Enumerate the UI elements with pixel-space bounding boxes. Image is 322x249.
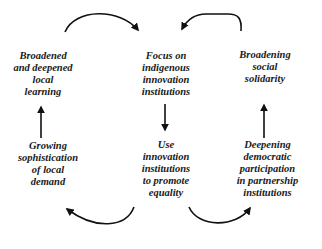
node-use-institutions: Use innovation institutions to promote e… — [126, 139, 206, 199]
arrow-learning-to-focus — [65, 14, 138, 32]
node-deepening-participation: Deepening democratic participation in pa… — [225, 139, 310, 199]
node-broadening-solidarity: Broadening social solidarity — [230, 49, 300, 85]
node-focus-institutions: Focus on indigenous innovation instituti… — [126, 50, 206, 98]
arrow-use-to-participation — [189, 207, 250, 223]
arrow-solidarity-to-focus — [182, 14, 241, 31]
arrow-use-to-demand — [67, 207, 134, 224]
diagram-arrows — [0, 0, 322, 249]
node-broadened-learning: Broadened and deepened local learning — [8, 50, 78, 98]
node-growing-demand: Growing sophistication of local demand — [8, 140, 88, 188]
